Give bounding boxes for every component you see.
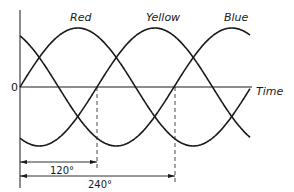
dim-120-label: 120°: [50, 165, 74, 176]
origin-label: 0: [11, 81, 18, 94]
red-label: Red: [70, 11, 92, 24]
yellow-label: Yellow: [146, 11, 180, 24]
three-phase-diagram: 0 Time Red Yellow Blue 120° 240°: [0, 0, 294, 192]
blue-label: Blue: [224, 11, 249, 24]
arrow-right-icon: [168, 174, 175, 178]
arrow-left-icon: [20, 160, 27, 164]
dim-240-label: 240°: [88, 179, 112, 190]
time-axis-label: Time: [256, 85, 283, 98]
arrow-right-icon: [90, 160, 97, 164]
arrow-left-icon: [20, 174, 27, 178]
